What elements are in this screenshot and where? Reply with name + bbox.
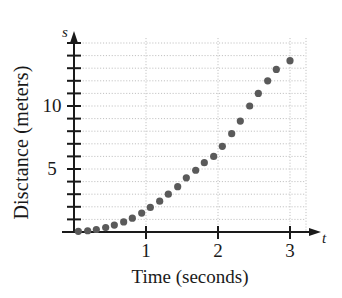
data-point bbox=[228, 130, 235, 137]
data-point bbox=[129, 215, 136, 222]
vertical-gridlines bbox=[146, 38, 306, 232]
data-point bbox=[192, 167, 199, 174]
data-point bbox=[273, 66, 280, 73]
data-point bbox=[120, 218, 127, 225]
x-axis-label: Time (seconds) bbox=[74, 266, 306, 288]
x-axis-symbol: t bbox=[322, 230, 326, 247]
x-tick-label-1: 1 bbox=[132, 240, 160, 262]
data-point bbox=[84, 227, 91, 234]
data-point bbox=[255, 90, 262, 97]
horizontal-gridlines bbox=[74, 43, 306, 219]
data-point bbox=[156, 198, 163, 205]
x-axis bbox=[62, 228, 321, 236]
data-point bbox=[210, 153, 217, 160]
data-point bbox=[264, 77, 271, 84]
y-axis-symbol: s bbox=[62, 24, 68, 41]
y-axis-label: Disctance (meters) bbox=[10, 28, 33, 258]
data-point-group bbox=[75, 57, 294, 235]
data-point bbox=[183, 174, 190, 181]
data-point bbox=[237, 118, 244, 125]
x-tick-label-2: 2 bbox=[204, 240, 232, 262]
data-point bbox=[165, 191, 172, 198]
data-point bbox=[219, 143, 226, 150]
x-tick-label-3: 3 bbox=[276, 240, 304, 262]
data-point bbox=[138, 210, 145, 217]
data-point bbox=[201, 159, 208, 166]
data-point bbox=[246, 102, 253, 109]
data-point bbox=[286, 57, 293, 64]
data-point bbox=[93, 226, 100, 233]
data-point bbox=[147, 204, 154, 211]
y-tick-label-5: 5 bbox=[38, 158, 66, 180]
y-tick-label-10: 10 bbox=[38, 95, 66, 117]
scatter-chart-figure: s t Disctance (meters) Time (seconds) 10… bbox=[0, 0, 342, 298]
data-point bbox=[102, 224, 109, 231]
data-point bbox=[174, 183, 181, 190]
data-point bbox=[111, 221, 118, 228]
data-point bbox=[75, 228, 82, 235]
